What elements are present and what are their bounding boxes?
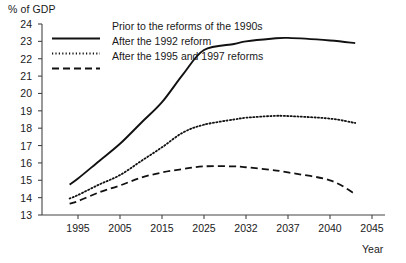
- legend-sample-solid-icon: [52, 26, 100, 29]
- series-line-dotted: [70, 116, 356, 199]
- legend-sample-dotted-icon: [52, 41, 100, 44]
- chart-container: % of GDP Year 242322212019181716151413 1…: [0, 0, 406, 263]
- legend-item-solid: Prior to the reforms of the 1990s: [52, 20, 302, 35]
- series-line-dashed: [70, 166, 356, 204]
- chart-legend: Prior to the reforms of the 1990s After …: [52, 20, 302, 65]
- legend-label-solid: Prior to the reforms of the 1990s: [112, 20, 263, 33]
- legend-item-dotted: After the 1992 reform: [52, 35, 302, 50]
- legend-item-dashed: After the 1995 and 1997 reforms: [52, 50, 302, 65]
- legend-label-dashed: After the 1995 and 1997 reforms: [112, 50, 292, 63]
- legend-sample-dashed-icon: [52, 56, 100, 59]
- legend-label-dotted: After the 1992 reform: [112, 35, 211, 48]
